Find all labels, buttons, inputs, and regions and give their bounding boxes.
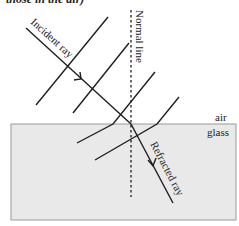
- glass-block: [11, 124, 236, 220]
- normal-line-label: Normal line: [134, 10, 146, 63]
- glass-label: glass: [207, 126, 229, 138]
- incident-ray: [26, 28, 131, 124]
- air-label: air: [215, 111, 227, 123]
- refraction-diagram: Incident ray Normal line Refracted ray a…: [0, 0, 239, 226]
